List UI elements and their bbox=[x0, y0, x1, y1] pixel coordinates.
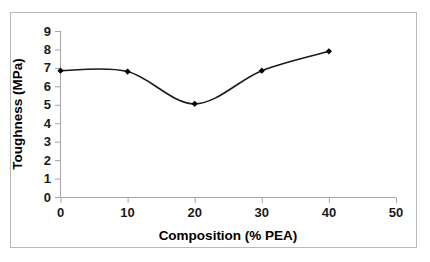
data-point-marker bbox=[326, 48, 332, 54]
data-point-marker bbox=[259, 68, 265, 74]
y-tick-label: 5 bbox=[44, 97, 51, 112]
y-tick-label: 6 bbox=[44, 79, 51, 94]
x-tick-label: 40 bbox=[322, 205, 336, 220]
y-axis-ticks bbox=[55, 32, 61, 198]
y-tick-label: 3 bbox=[44, 134, 51, 149]
x-tick-label: 20 bbox=[187, 205, 201, 220]
y-tick-label: 2 bbox=[44, 153, 51, 168]
data-point-marker bbox=[192, 101, 198, 107]
y-tick-label: 0 bbox=[44, 190, 51, 205]
x-axis-ticks bbox=[61, 198, 397, 204]
data-point-marker bbox=[125, 68, 131, 74]
y-tick-label: 7 bbox=[44, 60, 51, 75]
x-tick-label: 50 bbox=[389, 205, 403, 220]
x-axis-title: Composition (% PEA) bbox=[159, 228, 298, 243]
y-axis-title: Toughness (MPa) bbox=[10, 58, 25, 170]
y-axis-tick-labels: 0123456789 bbox=[44, 24, 52, 205]
series-markers-toughness bbox=[57, 48, 332, 107]
y-tick-label: 1 bbox=[44, 171, 51, 186]
y-tick-label: 4 bbox=[44, 116, 52, 131]
series-line-toughness bbox=[61, 51, 329, 104]
x-axis-tick-labels: 01020304050 bbox=[57, 205, 403, 220]
x-tick-label: 0 bbox=[57, 205, 64, 220]
y-tick-label: 8 bbox=[44, 42, 51, 57]
line-chart-plot: 0123456789 01020304050 Composition (% PE… bbox=[0, 0, 430, 262]
y-tick-label: 9 bbox=[44, 24, 51, 39]
x-tick-label: 30 bbox=[255, 205, 269, 220]
x-tick-label: 10 bbox=[120, 205, 134, 220]
chart-figure: 0123456789 01020304050 Composition (% PE… bbox=[0, 0, 430, 262]
